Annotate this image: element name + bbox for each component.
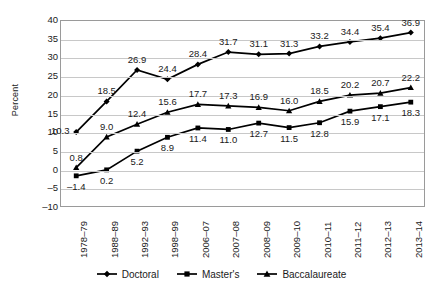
data-label: 10.3: [51, 126, 70, 136]
legend-label: Baccalaureate: [282, 269, 346, 280]
square-marker: [378, 104, 383, 109]
chart-legend: DoctoralMaster'sBaccalaureate: [0, 268, 442, 280]
data-label: 34.4: [341, 27, 360, 37]
data-label: 0.8: [70, 153, 83, 163]
data-label: 15.6: [158, 97, 177, 107]
diamond-legend-icon: [96, 268, 118, 280]
y-tick-label: 30: [32, 52, 58, 62]
data-label: 35.4: [371, 23, 390, 33]
y-axis-title: Percent: [10, 70, 20, 130]
diamond-marker: [256, 51, 262, 57]
gridline: [61, 58, 424, 59]
x-tick-label: 2010–11: [323, 222, 333, 258]
data-label: 11.0: [219, 135, 237, 145]
gridline: [61, 77, 424, 78]
x-tick-label: 2007–08: [231, 221, 241, 258]
legend-item[interactable]: Baccalaureate: [256, 268, 346, 280]
data-label: 8.9: [161, 143, 174, 153]
diamond-marker: [408, 30, 414, 36]
y-tick-label: 40: [32, 15, 58, 25]
diamond-marker: [317, 43, 323, 49]
data-label: 36.9: [402, 18, 421, 28]
data-label: 20.7: [371, 78, 390, 88]
data-label: 33.2: [310, 31, 329, 41]
data-label: 20.2: [341, 80, 360, 90]
data-label: 12.4: [128, 109, 147, 119]
square-marker: [165, 135, 170, 140]
series-line-baccalaureate: [76, 88, 411, 168]
series-line-master-s: [76, 102, 411, 176]
y-tick-label: 0: [32, 165, 58, 175]
diamond-marker: [103, 271, 110, 278]
x-tick-label: 1992–93: [140, 221, 150, 258]
x-tick-label: 1978–79: [79, 221, 89, 258]
data-label: 28.4: [189, 49, 208, 59]
y-tick-label: –5: [32, 183, 58, 193]
triangle-legend-icon: [256, 268, 278, 280]
x-tick-label: 1998–99: [170, 221, 180, 258]
data-label: 17.7: [189, 89, 208, 99]
data-label: 17.3: [219, 91, 238, 101]
data-label: 31.1: [249, 39, 268, 49]
plot-area: 10.318.526.924.428.431.731.131.333.234.4…: [60, 20, 425, 207]
x-tick-label: 1988–89: [110, 221, 120, 258]
data-label: 24.4: [158, 64, 177, 74]
x-axis-tick-labels: 1978–791988–891992–931998–992006–072007–…: [60, 210, 425, 265]
square-marker: [408, 100, 413, 105]
x-tick-label: 2012–13: [383, 221, 393, 258]
data-label: 22.2: [402, 73, 421, 83]
x-tick-label: 2006–07: [201, 221, 211, 258]
diamond-marker: [286, 51, 292, 57]
data-label: 31.7: [219, 37, 238, 47]
x-tick-label: 2013–14: [414, 221, 424, 258]
square-marker: [348, 109, 353, 114]
y-tick-label: –10: [32, 202, 58, 212]
square-marker: [226, 127, 231, 132]
gridline: [61, 189, 424, 190]
data-label: 0.2: [100, 176, 113, 186]
square-marker: [74, 173, 79, 178]
y-tick-label: 15: [32, 109, 58, 119]
legend-label: Master's: [202, 269, 239, 280]
data-label: 18.3: [402, 108, 421, 118]
y-axis-tick-labels: 4035302520151050–5–10: [30, 0, 58, 293]
data-label: 9.0: [100, 122, 113, 132]
x-tick-label: 2008–09: [262, 221, 272, 258]
y-tick-label: 20: [32, 90, 58, 100]
line-chart: Percent 4035302520151050–5–10 10.318.526…: [0, 0, 442, 293]
legend-item[interactable]: Master's: [176, 268, 239, 280]
data-label: 11.4: [189, 134, 207, 144]
square-marker: [184, 271, 189, 276]
data-label: 26.9: [128, 55, 147, 65]
gridline: [61, 115, 424, 116]
gridline: [61, 40, 424, 41]
data-label: 16.9: [249, 92, 268, 102]
diamond-marker: [195, 61, 201, 67]
square-marker: [317, 120, 322, 125]
legend-label: Doctoral: [122, 269, 159, 280]
square-marker: [256, 121, 261, 126]
square-legend-icon: [176, 268, 198, 280]
square-marker: [195, 126, 200, 131]
x-tick-label: 2009–10: [292, 221, 302, 258]
y-tick-label: 5: [32, 146, 58, 156]
data-label: 5.2: [130, 157, 143, 167]
gridline: [61, 152, 424, 153]
data-label: 17.1: [371, 113, 390, 123]
data-label: 16.0: [280, 96, 299, 106]
series-line-doctoral: [76, 33, 411, 132]
data-label: 18.5: [97, 86, 116, 96]
square-marker: [287, 125, 292, 130]
data-label: 18.5: [310, 86, 329, 96]
x-tick-label: 2011–12: [353, 222, 363, 258]
legend-item[interactable]: Doctoral: [96, 268, 159, 280]
data-label: 15.9: [341, 117, 360, 127]
data-label: 31.3: [280, 39, 299, 49]
gridline: [61, 171, 424, 172]
data-label: –1.4: [67, 182, 86, 192]
diamond-marker: [225, 49, 231, 55]
gridline: [61, 133, 424, 134]
data-label: 12.8: [310, 129, 329, 139]
data-label: 12.7: [249, 129, 268, 139]
y-tick-label: 35: [32, 34, 58, 44]
